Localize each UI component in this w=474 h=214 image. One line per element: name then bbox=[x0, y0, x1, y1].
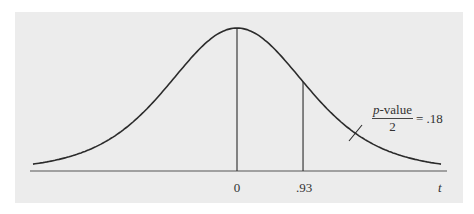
tick-label-t-stat: .93 bbox=[296, 180, 312, 196]
x-axis-label: t bbox=[438, 180, 442, 196]
annotation-pointer bbox=[349, 125, 362, 141]
p-value-annotation: p-value 2 = .18 bbox=[372, 102, 443, 135]
p-value-fraction: p-value 2 bbox=[372, 102, 413, 135]
fraction-numerator: p-value bbox=[372, 102, 413, 119]
p-value-result: = .18 bbox=[416, 111, 443, 127]
fraction-denominator: 2 bbox=[389, 119, 396, 135]
tick-label-zero: 0 bbox=[234, 180, 241, 196]
value-text: -value bbox=[380, 102, 412, 117]
